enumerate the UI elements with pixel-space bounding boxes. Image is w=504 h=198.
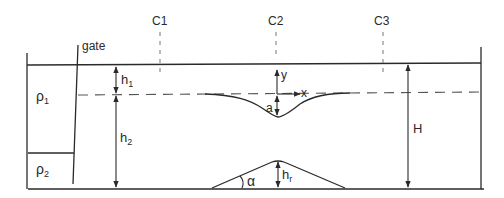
- y-axis-label: y: [281, 68, 287, 82]
- H-label: H: [413, 121, 422, 136]
- c1-label: C1: [152, 14, 168, 28]
- x-axis-label: x: [301, 86, 307, 100]
- rho1-label: ρ1: [36, 88, 49, 106]
- h2-label: h2: [120, 130, 132, 147]
- free-surface: [27, 63, 481, 65]
- stratified-flow-diagram: gate C1 C2 C3 ρ1 ρ2 h1 h2 H y x a α hr: [0, 0, 504, 198]
- c2-label: C2: [268, 14, 284, 28]
- alpha-arc: [240, 176, 243, 188]
- gate: [73, 45, 78, 184]
- hr-label: hr: [282, 167, 292, 184]
- h1-label: h1: [121, 72, 133, 89]
- c3-label: C3: [374, 14, 390, 28]
- a-label: a: [266, 101, 273, 115]
- alpha-label: α: [247, 173, 255, 189]
- rho2-label: ρ2: [36, 161, 49, 179]
- gate-label: gate: [82, 39, 106, 53]
